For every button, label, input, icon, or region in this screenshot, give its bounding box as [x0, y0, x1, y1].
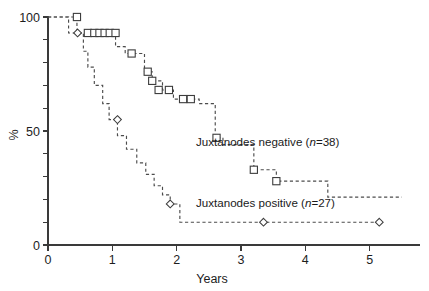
censor-marker-square [149, 77, 156, 84]
censor-marker-diamond [375, 218, 383, 226]
y-axis-ticks: 050100 [19, 11, 48, 253]
survival-step-line [48, 17, 402, 197]
censor-marker-square [250, 166, 257, 173]
x-axis: 012345 Years [45, 245, 420, 286]
x-tick-label: 3 [237, 253, 244, 267]
chart-legend: Juxtanodes negative (n=38)Juxtanodes pos… [196, 135, 340, 209]
y-tick-label: 100 [19, 11, 40, 25]
x-axis-ticks: 012345 [45, 245, 374, 267]
censor-marker-square [187, 95, 194, 102]
censor-marker-diamond [166, 200, 174, 208]
legend-label-positive: Juxtanodes positive (n=27) [196, 196, 335, 209]
legend-label-negative: Juxtanodes negative (n=38) [196, 135, 340, 148]
x-tick-label: 2 [173, 253, 180, 267]
x-tick-label: 0 [45, 253, 52, 267]
censor-marker-square [273, 178, 280, 185]
series-layer [48, 13, 402, 226]
survival-step-line [48, 17, 379, 222]
x-tick-label: 1 [109, 253, 116, 267]
series-positive [48, 17, 383, 226]
censor-marker-square [144, 68, 151, 75]
censor-marker-diamond [260, 218, 268, 226]
censor-marker-diamond [74, 29, 82, 37]
kaplan-meier-plot: 050100 % 012345 Years Juxtanodes negativ… [0, 0, 429, 291]
y-tick-label: 50 [26, 125, 40, 139]
censor-marker-square [179, 95, 186, 102]
x-tick-label: 4 [302, 253, 309, 267]
censor-marker-diamond [114, 116, 122, 124]
censor-marker-square [155, 86, 162, 93]
x-axis-title: Years [196, 272, 228, 286]
y-axis: 050100 % [7, 11, 48, 253]
survival-chart: 050100 % 012345 Years Juxtanodes negativ… [0, 0, 429, 291]
series-negative [48, 13, 402, 197]
censor-marker-square [165, 86, 172, 93]
censor-marker-square [73, 13, 80, 20]
censor-marker-square [128, 50, 135, 57]
y-axis-title: % [7, 129, 21, 140]
y-tick-label: 0 [33, 239, 40, 253]
x-tick-label: 5 [366, 253, 373, 267]
censor-marker-square [112, 29, 119, 36]
